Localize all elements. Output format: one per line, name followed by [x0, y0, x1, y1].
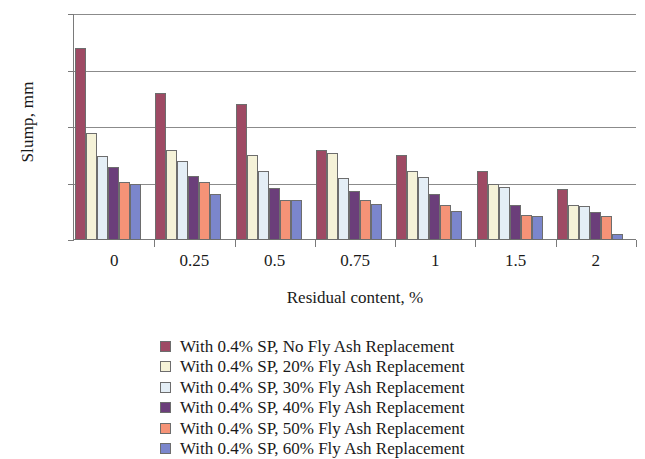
plot-area: 050100150200 00.250.50.7511.52	[74, 14, 636, 240]
x-tick-label: 0.25	[159, 251, 229, 271]
bar	[166, 150, 177, 240]
x-tick-mark	[154, 240, 155, 247]
bar	[429, 194, 440, 240]
x-tick-label: 2	[561, 251, 631, 271]
bar	[579, 206, 590, 240]
bar	[396, 155, 407, 240]
bar	[349, 191, 360, 240]
bar-group	[75, 14, 141, 240]
bar	[440, 205, 451, 240]
bar	[130, 184, 141, 241]
bar	[418, 177, 429, 240]
bar	[177, 161, 188, 240]
bar	[510, 205, 521, 240]
x-tick-mark	[636, 240, 637, 247]
legend-swatch-icon	[160, 341, 171, 352]
x-tick-label: 0.5	[240, 251, 310, 271]
bar	[155, 93, 166, 240]
bar	[360, 200, 371, 240]
bar-group	[236, 14, 302, 240]
legend-item: With 0.4% SP, 20% Fly Ash Replacement	[160, 357, 630, 378]
bar-group	[477, 14, 543, 240]
legend-item: With 0.4% SP, 40% Fly Ash Replacement	[160, 398, 630, 419]
bar	[247, 155, 258, 240]
legend-label: With 0.4% SP, 50% Fly Ash Replacement	[180, 420, 465, 437]
bar	[407, 171, 418, 240]
bar	[327, 153, 338, 240]
bar	[97, 156, 108, 240]
bar	[568, 205, 579, 240]
bar	[612, 234, 623, 240]
bar	[280, 200, 291, 240]
y-tick-mark	[68, 127, 74, 128]
legend-item: With 0.4% SP, 30% Fly Ash Replacement	[160, 377, 630, 398]
slump-bar-chart: Slump, mm 050100150200 00.250.50.7511.52…	[0, 0, 645, 459]
bar	[488, 184, 499, 241]
x-axis-title: Residual content, %	[74, 288, 636, 308]
legend-item: With 0.4% SP, 50% Fly Ash Replacement	[160, 418, 630, 439]
bar	[499, 187, 510, 240]
bar-group	[396, 14, 462, 240]
x-tick-label: 0	[79, 251, 149, 271]
bar	[601, 216, 612, 240]
legend-swatch-icon	[160, 402, 171, 413]
legend-label: With 0.4% SP, 30% Fly Ash Replacement	[180, 379, 465, 396]
bar	[199, 182, 210, 240]
x-tick-mark	[315, 240, 316, 247]
y-tick-mark	[68, 71, 74, 72]
x-tick-mark	[475, 240, 476, 247]
chart-legend: With 0.4% SP, No Fly Ash ReplacementWith…	[160, 336, 630, 459]
legend-swatch-icon	[160, 423, 171, 434]
bar	[86, 133, 97, 240]
bar	[338, 178, 349, 240]
x-tick-mark	[235, 240, 236, 247]
y-axis-title: Slump, mm	[18, 32, 38, 212]
bar	[269, 188, 280, 240]
legend-item: With 0.4% SP, No Fly Ash Replacement	[160, 336, 630, 357]
bar	[371, 204, 382, 240]
bar	[557, 189, 568, 240]
x-tick-label: 1.5	[481, 251, 551, 271]
bar	[477, 171, 488, 240]
legend-label: With 0.4% SP, 40% Fly Ash Replacement	[180, 399, 465, 416]
legend-label: With 0.4% SP, 60% Fly Ash Replacement	[180, 440, 465, 457]
legend-label: With 0.4% SP, No Fly Ash Replacement	[180, 338, 454, 355]
bar	[108, 167, 119, 240]
y-tick-mark	[68, 240, 74, 241]
bar	[316, 150, 327, 240]
legend-swatch-icon	[160, 382, 171, 393]
x-tick-label: 1	[400, 251, 470, 271]
bar	[590, 212, 601, 240]
x-tick-mark	[556, 240, 557, 247]
bar-group	[316, 14, 382, 240]
bar	[236, 104, 247, 240]
legend-item: With 0.4% SP, 60% Fly Ash Replacement	[160, 439, 630, 459]
x-tick-label: 0.75	[320, 251, 390, 271]
bar-group	[557, 14, 623, 240]
legend-swatch-icon	[160, 361, 171, 372]
bar	[258, 171, 269, 240]
bar	[291, 200, 302, 240]
bar	[188, 176, 199, 240]
y-tick-mark	[68, 184, 74, 185]
bar	[532, 216, 543, 240]
x-tick-mark	[395, 240, 396, 247]
y-tick-mark	[68, 14, 74, 15]
legend-label: With 0.4% SP, 20% Fly Ash Replacement	[180, 358, 465, 375]
bar	[75, 48, 86, 240]
bar	[451, 211, 462, 240]
bar	[119, 182, 130, 240]
legend-swatch-icon	[160, 443, 171, 454]
bar	[521, 215, 532, 240]
bar-group	[155, 14, 221, 240]
bar	[210, 194, 221, 240]
